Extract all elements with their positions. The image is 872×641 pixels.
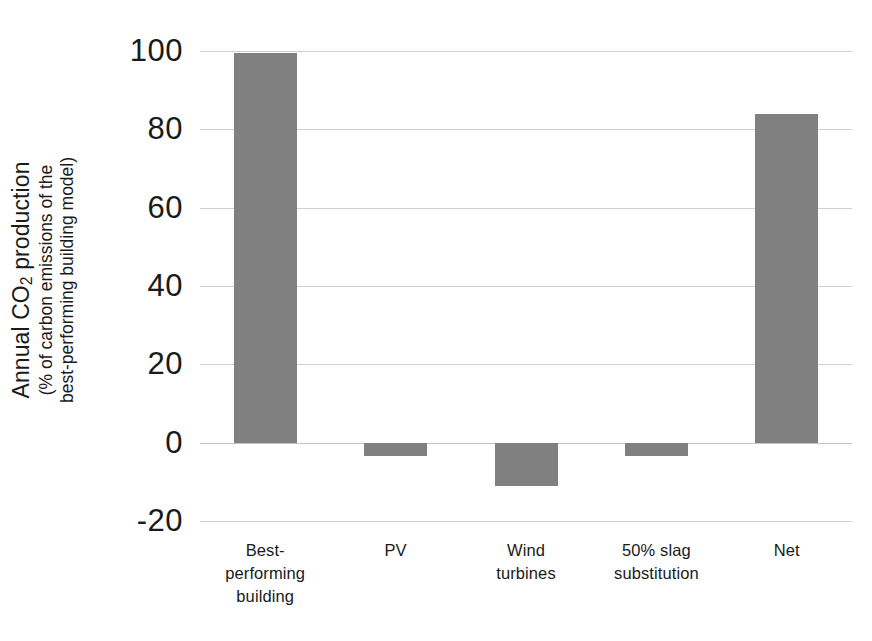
y-axis-label-subscript: 2 [18,276,35,285]
y-axis-label-primary-part2: production [8,161,34,276]
y-tick-label-20: 20 [148,346,183,382]
x-axis-label: Net [774,539,800,562]
x-axis-label: Best- performing building [225,539,305,607]
bar [234,53,297,443]
y-tick-label--20: -20 [137,503,183,539]
y-tick-label-60: 60 [148,190,183,226]
y-axis-label-text: Annual CO2 production (% of carbon emiss… [9,157,77,403]
y-axis-label-secondary-line2: best-performing building model) [57,157,77,403]
x-axis-label: 50% slag substitution [614,539,699,585]
bars-group [200,51,852,521]
y-tick-label-40: 40 [148,268,183,304]
y-tick-label-0: 0 [165,425,183,461]
bar-chart-figure: Annual CO2 production (% of carbon emiss… [0,0,872,641]
gridline--20: -20 [200,521,852,522]
y-axis-label-secondary-line1: (% of carbon emissions of the [37,157,57,403]
y-tick-label-100: 100 [130,33,183,69]
bar [625,443,688,457]
plot-area: 100806040200-20 [200,51,852,521]
bar [364,443,427,457]
bar [495,443,558,486]
y-axis-label-primary-part1: Annual CO [8,285,34,398]
bar [755,114,818,443]
x-axis-label: PV [384,539,406,562]
y-axis-label: Annual CO2 production (% of carbon emiss… [0,0,86,560]
x-axis-label: Wind turbines [496,539,556,585]
x-axis-labels-group: Best- performing buildingPVWind turbines… [200,533,852,638]
y-tick-label-80: 80 [148,111,183,147]
y-axis-label-primary: Annual CO2 production [9,157,36,403]
